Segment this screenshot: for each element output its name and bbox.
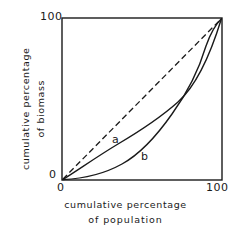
curve-b-label: b — [141, 150, 148, 163]
y-axis-tick-0: 0 — [49, 168, 57, 181]
y-axis-title-line1: cumulative percentage — [19, 9, 34, 209]
lorenz-curve-figure: 100 0 0 100 a b cumulative percentage of… — [0, 0, 251, 238]
curve-a-label: a — [112, 133, 119, 146]
x-axis-title-line2: of population — [0, 213, 251, 228]
y-axis-title-line2: of biomass — [34, 9, 49, 209]
x-axis-tick-0: 0 — [57, 181, 65, 194]
x-axis-tick-100: 100 — [206, 181, 229, 194]
y-axis-title: cumulative percentage of biomass — [19, 9, 48, 209]
